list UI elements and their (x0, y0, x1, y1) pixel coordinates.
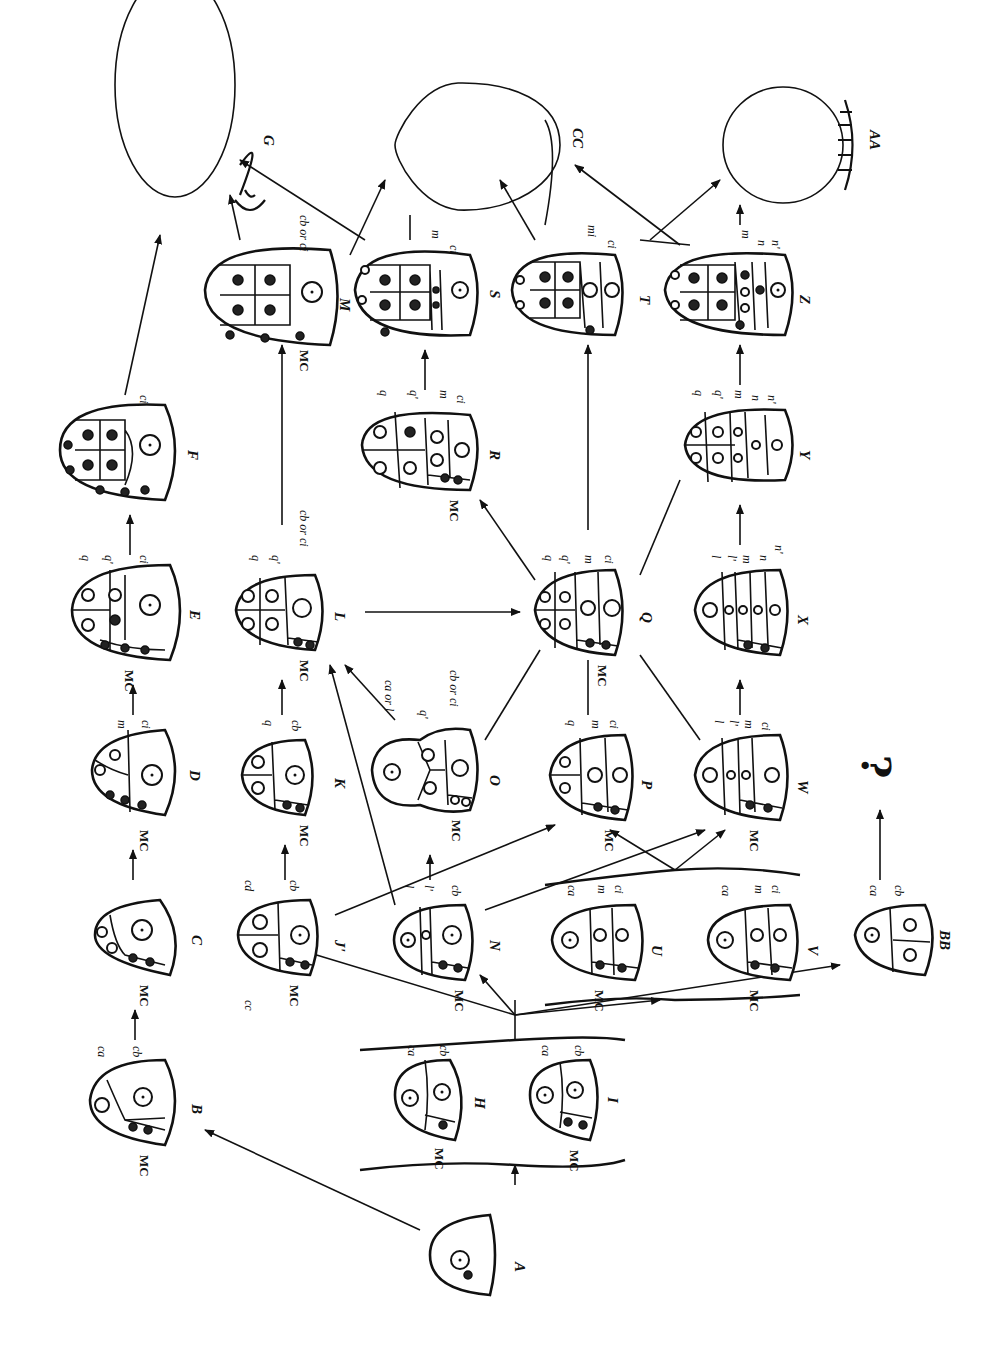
stage-K: q cb MC K (242, 680, 348, 847)
stage-C: MC C (95, 850, 205, 1007)
stage-W: l l' m ci MC W (640, 655, 811, 852)
stage-AA: AA (723, 87, 883, 203)
cell-label-l-prime: l' (727, 720, 741, 726)
cell-label-ci: ci (607, 720, 621, 729)
cell-label-l: l (709, 555, 723, 559)
stage-label-G: G (261, 135, 277, 146)
cell-label-q: q (542, 555, 556, 561)
arrow-HI-to-UV (515, 1000, 660, 1015)
cell-label-q-prime: q' (417, 710, 431, 719)
cell-label-ci: ci (769, 885, 783, 894)
cell-label-q: q (692, 390, 706, 396)
cell-label-MC: MC (567, 1150, 582, 1172)
stage-label-B: B (189, 1103, 205, 1114)
stage-label-H: H (472, 1096, 488, 1110)
line-O-to-Q (485, 650, 540, 740)
stage-label-AA: AA (867, 129, 883, 150)
arrow-F-to-G (125, 235, 160, 395)
arrow-UV-to-P (610, 830, 675, 870)
stage-Q: q q' m ci MC Q (480, 345, 680, 687)
cell-label-q: q (377, 390, 391, 396)
stage-G: G (115, 0, 277, 210)
stage-label-X: X (795, 614, 811, 626)
cell-label-cb-or-ci: cb or ci (297, 215, 311, 252)
cell-label-MC: MC (297, 350, 312, 372)
cell-label-MC: MC (449, 820, 464, 842)
stage-label-K: K (332, 777, 348, 789)
cell-label-cb: cb (572, 1045, 586, 1056)
stage-label-O: O (487, 775, 503, 786)
cell-label-q: q (262, 720, 276, 726)
cell-label-q-prime: q' (269, 555, 283, 564)
stage-J: cd cc cb MC J' (238, 825, 555, 1011)
embryo-sphere (723, 87, 843, 203)
stage-label-T: T (637, 295, 653, 305)
arrow-J-to-P (335, 825, 555, 915)
line-W-to-Q (640, 655, 700, 740)
cell-label-MC: MC (297, 825, 312, 847)
cell-label-cb: cb (437, 1045, 451, 1056)
stage-label-S: S (487, 290, 503, 298)
cell-label-m: m (582, 555, 596, 564)
stage-O: ca or l q' cb or ci MC O (345, 650, 540, 842)
cell-label-MC: MC (137, 830, 152, 852)
cell-label-m: m (589, 720, 603, 729)
cell-label-cb: cb (130, 1046, 144, 1057)
cell-label-n-prime: n' (772, 545, 786, 554)
stage-U: ca m ci MC U (552, 885, 665, 1012)
brace-HI-right (360, 1160, 625, 1170)
arrow-UV-to-W (675, 830, 725, 870)
cell-label-m: m (752, 885, 766, 894)
cell-label-m: m (429, 230, 443, 239)
cell-label-n-prime: n' (769, 240, 783, 249)
stage-D: m ci MC D (92, 685, 203, 852)
cell-label-l-prime: l' (422, 885, 436, 891)
lineage-diagram: G CC AA A ca cb MC B (0, 0, 997, 1368)
cell-label-m: m (595, 885, 609, 894)
cell-label-l: l (712, 720, 726, 724)
cell-label-ci: ci (139, 720, 153, 729)
stage-label-D: D (187, 769, 203, 781)
cell-label-cb: cb (289, 720, 303, 731)
cell-label-ci: ci (605, 240, 619, 249)
cell-label-cb: cb (449, 885, 463, 896)
cell-label-l: l (402, 885, 416, 889)
stage-E: q q' ci MC E (72, 515, 203, 692)
embryo-sphere (395, 83, 560, 210)
arrow-Q-to-R (480, 500, 535, 580)
cell-label-mi: mi (585, 225, 599, 237)
cell-label-MC: MC (447, 500, 462, 522)
cell-label-m: m (739, 230, 753, 239)
cell-label-q-prime: q' (407, 390, 421, 399)
stage-label-CC: CC (570, 128, 586, 149)
cell-label-q: q (249, 555, 263, 561)
cell-label-q: q (565, 720, 579, 726)
cell-label-q-prime: q' (712, 390, 726, 399)
arrow-A-to-B (205, 1130, 420, 1230)
line-Z-to-CC (640, 240, 690, 245)
cell-label-ci: ci (137, 555, 151, 564)
cell-label-m: m (115, 720, 129, 729)
cell-label-MC: MC (452, 990, 467, 1012)
cell-label-m: m (742, 720, 756, 729)
stage-Y: q q' m n n' Y (685, 345, 813, 482)
cell-label-cc: cc (242, 1000, 256, 1011)
cell-label-m: m (732, 390, 746, 399)
cell-label-cb-or-ci: cb or ci (447, 670, 461, 707)
cell-label-cd: cd (242, 880, 256, 892)
cell-label-ca: ca (867, 885, 881, 896)
stage-label-I: I (605, 1096, 621, 1104)
stage-label-U: U (649, 945, 665, 957)
suspensor (235, 190, 265, 210)
cell-label-q: q (79, 555, 93, 561)
stage-label-Z: Z (797, 294, 813, 304)
cell-label-MC: MC (595, 665, 610, 687)
cell-label-l-prime: l' (725, 555, 739, 561)
stage-F: ci F (60, 235, 201, 500)
cell-label-MC: MC (747, 990, 762, 1012)
cell-label-m: m (740, 555, 754, 564)
cell-label-MC: MC (297, 660, 312, 682)
cell-label-ci: ci (612, 885, 626, 894)
stage-label-A: A (512, 1261, 528, 1272)
cell-label-q-prime: q' (102, 555, 116, 564)
